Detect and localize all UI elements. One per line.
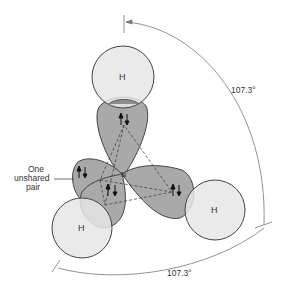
label-h-left: H — [78, 223, 85, 233]
angle-label-bottom: 107.3° — [167, 268, 192, 278]
ammonia-diagram: H H H N One unshared pair 107.3° 107.3° — [0, 0, 285, 290]
angle-label-right: 107.3° — [231, 85, 256, 95]
label-h-top: H — [119, 72, 126, 82]
label-n: N — [121, 171, 126, 178]
lone-pair-label-3: pair — [26, 182, 40, 192]
label-h-right: H — [211, 205, 218, 215]
orbital-right — [122, 166, 194, 219]
